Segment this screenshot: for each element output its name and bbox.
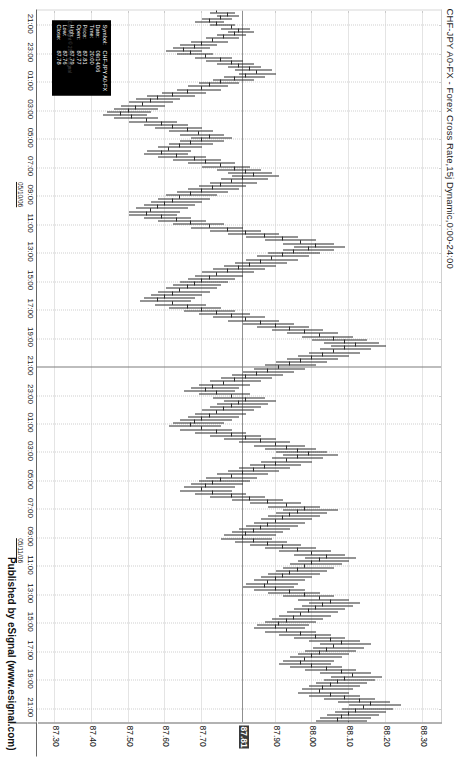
ohlc-bar [320, 672, 371, 673]
time-axis-label: 17:00 [26, 640, 35, 660]
ohlc-bar [235, 262, 286, 263]
ohlc-open-tick [194, 419, 195, 422]
plot-area[interactable]: Symbol:CHF-JPY A0-FXDate:09/14/06Time:20… [37, 9, 442, 722]
ohlc-bar [180, 134, 224, 135]
ohlc-open-tick [216, 390, 217, 393]
ohlc-open-tick [238, 400, 239, 403]
ohlc-bar [254, 579, 305, 580]
ohlc-open-tick [275, 586, 276, 589]
ohlc-bar [331, 676, 382, 677]
ohlc-open-tick [132, 114, 133, 117]
ohlc-bar [191, 227, 242, 228]
ohlc-open-tick [304, 506, 305, 509]
ohlc-open-tick [297, 547, 298, 550]
time-axis-label: 09:00 [26, 184, 35, 204]
ohlc-open-tick [289, 570, 290, 573]
ohlc-bar [228, 172, 272, 173]
ohlc-open-tick [356, 708, 357, 711]
ohlc-bar [191, 137, 231, 138]
ohlc-bar [316, 720, 367, 721]
ohlc-open-tick [242, 175, 243, 178]
ohlc-open-tick [282, 252, 283, 255]
ohlc-bar [217, 63, 254, 64]
time-axis-label: 23:00 [26, 383, 35, 403]
time-axis-label: 13:00 [26, 583, 35, 603]
ohlc-bar [232, 499, 283, 500]
ohlc-open-tick [275, 461, 276, 464]
price-axis-label: 87.40 [88, 725, 98, 746]
ohlc-open-tick [275, 442, 276, 445]
ohlc-bar [195, 432, 246, 433]
ohlc-bar [195, 413, 246, 414]
ohlc-bar [191, 483, 242, 484]
ohlc-bar [320, 717, 371, 718]
ohlc-open-tick [326, 554, 327, 557]
ohlc-open-tick [334, 336, 335, 339]
ohlc-bar [232, 175, 280, 176]
ohlc-open-tick [231, 394, 232, 397]
chart-title: CHF-JPY A0-FX - Forex Cross Rate,15j Dyn… [443, 8, 456, 756]
ohlc-bar [290, 563, 341, 564]
ohlc-open-tick [267, 580, 268, 583]
time-gridline [37, 138, 441, 139]
ohlc-open-tick [220, 79, 221, 82]
ohlc-open-tick [345, 676, 346, 679]
ohlc-open-tick [289, 512, 290, 515]
ohlc-bar [239, 467, 290, 468]
ohlc-open-tick [308, 608, 309, 611]
ohlc-bar [151, 201, 202, 202]
ohlc-open-tick [209, 224, 210, 227]
ohlc-bar [144, 204, 195, 205]
ohlc-bar [210, 435, 261, 436]
ohlc-open-tick [234, 76, 235, 79]
time-axis-label: 17:00 [26, 298, 35, 318]
ohlc-open-tick [319, 650, 320, 653]
time-gridline [37, 281, 441, 282]
ohlc-bar [224, 400, 275, 401]
ohlc-open-tick [168, 147, 169, 150]
ohlc-bar [243, 371, 294, 372]
legend-value: 87.78 [55, 50, 62, 64]
time-gridline [37, 594, 441, 595]
ohlc-bar [287, 358, 338, 359]
ohlc-open-tick [275, 576, 276, 579]
ohlc-bar [268, 515, 319, 516]
ohlc-bar [103, 114, 147, 115]
ohlc-open-tick [135, 105, 136, 108]
time-axis-label: 19:00 [26, 668, 35, 688]
time-axis-label: 21:00 [26, 13, 35, 33]
price-axis[interactable]: 88.3088.2088.1088.0087.9087.8187.7087.60… [38, 722, 442, 756]
time-gridline [37, 508, 441, 509]
ohlc-open-tick [304, 592, 305, 595]
ohlc-open-tick [300, 612, 301, 615]
ohlc-bar [254, 589, 305, 590]
ohlc-open-tick [297, 567, 298, 570]
ohlc-open-tick [260, 320, 261, 323]
ohlc-bar [261, 576, 312, 577]
ohlc-bar [166, 287, 217, 288]
quote-info-legend: Symbol:CHF-JPY A0-FXDate:09/14/06Time:20… [52, 20, 111, 95]
ohlc-open-tick [264, 583, 265, 586]
ohlc-open-tick [337, 717, 338, 720]
ohlc-bar [302, 336, 353, 337]
ohlc-open-tick [201, 41, 202, 44]
ohlc-open-tick [289, 361, 290, 364]
ohlc-open-tick [323, 352, 324, 355]
ohlc-bar [246, 525, 297, 526]
ohlc-open-tick [256, 70, 257, 73]
ohlc-open-tick [198, 131, 199, 134]
ohlc-open-tick [341, 714, 342, 717]
ohlc-bar [173, 422, 224, 423]
ohlc-bar [151, 294, 202, 295]
ohlc-bar [213, 268, 264, 269]
ohlc-bar [261, 461, 312, 462]
ohlc-bar [279, 634, 330, 635]
ohlc-bar [309, 602, 360, 603]
ohlc-open-tick [238, 63, 239, 66]
ohlc-open-tick [187, 304, 188, 307]
publisher-label: Published by eSignal (www.esignal.com) [6, 8, 17, 756]
ohlc-open-tick [231, 25, 232, 28]
ohlc-open-tick [201, 278, 202, 281]
ohlc-bar [261, 518, 312, 519]
ohlc-open-tick [267, 522, 268, 525]
